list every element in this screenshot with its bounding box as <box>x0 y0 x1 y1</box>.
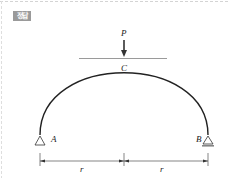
pin-support-icon <box>35 136 45 145</box>
point-c-label: C <box>121 63 127 73</box>
roller-support-icon <box>202 136 214 147</box>
arch-curve <box>40 73 208 135</box>
support-a-label: A <box>51 134 57 144</box>
dimension-label-right: r <box>160 164 164 174</box>
dimension-label-left: r <box>80 164 84 174</box>
load-label: P <box>121 28 127 38</box>
support-b-label: B <box>196 134 202 144</box>
dimension-line <box>40 153 208 166</box>
load-arrow-icon <box>121 40 127 57</box>
arch-diagram <box>0 0 228 178</box>
